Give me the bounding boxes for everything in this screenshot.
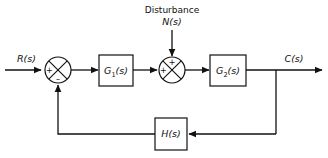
input-signal-label: R(s) [17, 53, 36, 64]
sum1-sign-left: + [46, 66, 53, 75]
wire-h-to-sum1 [58, 85, 155, 134]
forward-gain-1-block: G1(s) [99, 55, 133, 86]
sum2-sign-left: + [160, 66, 167, 75]
g1-base: G [104, 65, 111, 76]
disturbance-title: Disturbance [145, 5, 200, 15]
feedback-gain-label: H(s) [161, 128, 181, 139]
g1-arg: (s) [116, 65, 128, 76]
block-diagram-canvas: R(s) + – G1(s) Disturbance N(s) [0, 0, 328, 158]
feedback-gain-block: H(s) [155, 118, 187, 150]
sum2-sign-top: + [169, 58, 176, 67]
g2-arg: (s) [228, 65, 240, 76]
block-diagram-svg: R(s) + – G1(s) Disturbance N(s) [0, 0, 328, 158]
disturbance-summing-junction: + + [159, 57, 185, 83]
sum1-sign-bottom: – [56, 75, 60, 84]
forward-gain-2-block: G2(s) [210, 55, 246, 86]
disturbance-signal-label: N(s) [162, 16, 181, 27]
g2-base: G [216, 65, 223, 76]
h-arg: (s) [168, 128, 180, 139]
error-summing-junction: + – [45, 57, 71, 84]
h-base: H [161, 128, 168, 139]
output-signal-label: C(s) [285, 53, 304, 64]
